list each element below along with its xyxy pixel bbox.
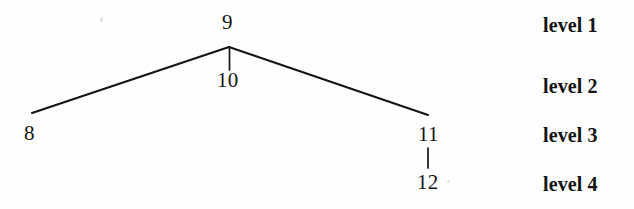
level-label-1: level 1	[543, 15, 598, 35]
tree-level-diagram: 9 10 8 11 12 level 1 level 2 level 3 lev…	[0, 0, 634, 209]
edge-root-to-left-leaf	[32, 47, 229, 113]
scan-speck-artifact	[100, 17, 103, 22]
tree-edges-layer	[0, 0, 634, 209]
edge-root-to-right-leaf	[229, 47, 428, 115]
level-label-3: level 3	[543, 125, 598, 145]
level-label-2: level 2	[543, 76, 598, 96]
tree-node-11: 11	[418, 124, 439, 145]
tree-node-12: 12	[417, 172, 438, 193]
tree-node-8: 8	[24, 123, 35, 144]
tree-node-10: 10	[217, 70, 238, 91]
scan-speck-artifact	[447, 180, 450, 183]
tree-node-9: 9	[222, 12, 233, 33]
level-label-4: level 4	[543, 174, 598, 194]
